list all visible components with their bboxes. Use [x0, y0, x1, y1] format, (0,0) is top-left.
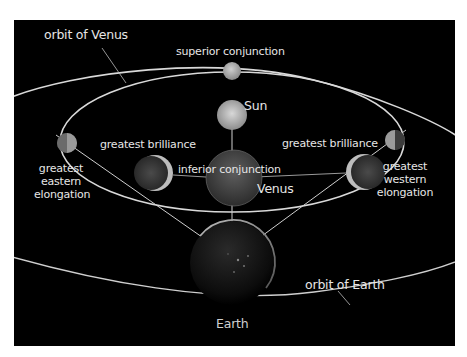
- label-venus: Venus: [257, 182, 294, 195]
- venus-greatest-western-elongation: [385, 130, 405, 150]
- label-greatest-eastern-elongation: greatest eastern elongation: [34, 162, 88, 201]
- label-superior-conjunction: superior conjunction: [176, 45, 285, 58]
- label-greatest-brilliance-east: greatest brilliance: [100, 138, 196, 151]
- label-orbit-of-earth: orbit of Earth: [305, 278, 385, 291]
- venus-inferior-conjunction: [206, 150, 262, 206]
- venus-greatest-eastern-elongation: [57, 133, 77, 153]
- label-inferior-conjunction: inferior conjunction: [178, 163, 281, 176]
- earth: [190, 220, 275, 305]
- label-earth: Earth: [216, 317, 249, 330]
- venus-superior-conjunction: [223, 62, 241, 80]
- diagram-panel: orbit of Venus superior conjunction Sun …: [14, 20, 455, 346]
- venus-greatest-brilliance-east: [134, 155, 173, 191]
- label-sun: Sun: [244, 99, 267, 112]
- label-greatest-western-elongation: greatest western elongation: [375, 160, 435, 199]
- sun: [217, 100, 247, 130]
- label-greatest-brilliance-west: greatest brilliance: [282, 137, 378, 150]
- label-orbit-of-venus: orbit of Venus: [44, 28, 128, 41]
